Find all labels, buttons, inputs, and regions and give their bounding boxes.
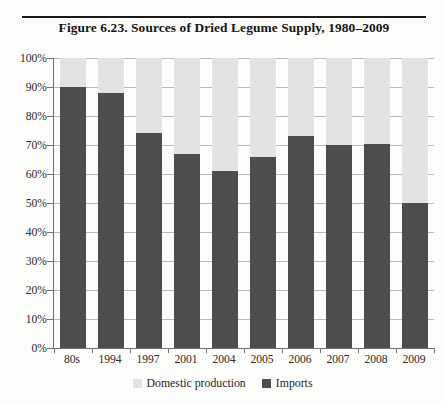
bar-segment-domestic-production — [212, 58, 238, 171]
y-axis-label: 0% — [3, 342, 47, 355]
bar-segment-imports — [250, 157, 276, 348]
bar-segment-imports — [364, 144, 390, 348]
figure-page: Figure 6.23. Sources of Dried Legume Sup… — [0, 0, 445, 404]
y-axis-label: 60% — [3, 168, 47, 181]
y-axis-tick — [47, 261, 53, 262]
y-axis-label: 70% — [3, 139, 47, 152]
legend-item: Domestic production — [133, 376, 246, 391]
y-axis-label: 10% — [3, 313, 47, 326]
bar-segment-imports — [402, 203, 428, 348]
y-axis-label: 90% — [3, 81, 47, 94]
page-title: Figure 6.23. Sources of Dried Legume Sup… — [22, 20, 426, 36]
bar-segment-domestic-production — [98, 58, 124, 93]
legend-label: Domestic production — [147, 376, 246, 391]
bar-segment-imports — [288, 136, 314, 348]
y-axis-label: 40% — [3, 226, 47, 239]
x-axis-label: 2009 — [392, 353, 436, 366]
legend-item: Imports — [262, 376, 313, 391]
title-divider — [22, 16, 426, 18]
bar-segment-domestic-production — [250, 58, 276, 157]
y-axis-tick — [47, 87, 53, 88]
bar-column — [136, 58, 162, 348]
y-axis-label: 100% — [3, 52, 47, 65]
bar-segment-domestic-production — [174, 58, 200, 154]
bar-segment-domestic-production — [326, 58, 352, 145]
bar-segment-domestic-production — [60, 58, 86, 87]
bar-segment-imports — [136, 133, 162, 348]
y-axis-tick — [47, 348, 53, 349]
bar-column — [402, 58, 428, 348]
legend-swatch-icon — [262, 379, 271, 388]
bar-column — [364, 58, 390, 348]
y-axis-label: 50% — [3, 197, 47, 210]
bar-column — [212, 58, 238, 348]
bar-segment-imports — [212, 171, 238, 348]
bar-column — [60, 58, 86, 348]
bar-segment-imports — [98, 93, 124, 348]
y-axis-label: 30% — [3, 255, 47, 268]
y-axis-label: 20% — [3, 284, 47, 297]
legend-label: Imports — [276, 376, 313, 391]
y-axis-tick — [47, 203, 53, 204]
bar-column — [326, 58, 352, 348]
bar-segment-imports — [174, 154, 200, 348]
bar-segment-domestic-production — [364, 58, 390, 144]
bar-column — [98, 58, 124, 348]
y-axis-label: 80% — [3, 110, 47, 123]
chart-legend: Domestic productionImports — [0, 376, 445, 391]
bar-segment-domestic-production — [136, 58, 162, 133]
y-axis-tick — [47, 58, 53, 59]
bar-column — [288, 58, 314, 348]
y-axis-tick — [47, 116, 53, 117]
bar-segment-domestic-production — [288, 58, 314, 136]
bar-column — [174, 58, 200, 348]
y-axis-tick — [47, 290, 53, 291]
bar-column — [250, 58, 276, 348]
y-axis-tick — [47, 174, 53, 175]
y-axis-tick — [47, 145, 53, 146]
bar-segment-domestic-production — [402, 58, 428, 203]
chart-plot-area — [53, 58, 434, 349]
bar-segment-imports — [60, 87, 86, 348]
bar-segment-imports — [326, 145, 352, 348]
legend-swatch-icon — [133, 379, 142, 388]
y-axis-tick — [47, 232, 53, 233]
y-axis-tick — [47, 319, 53, 320]
